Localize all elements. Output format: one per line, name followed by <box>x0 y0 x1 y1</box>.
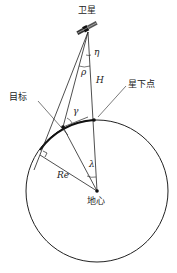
earth-radius-symbol: Re <box>57 171 69 180</box>
subsat-leader-line <box>98 86 126 117</box>
target-label: 目标 <box>9 93 27 102</box>
rho-symbol: ρ <box>81 68 86 77</box>
lambda-symbol: λ <box>89 160 95 169</box>
lambda-arc <box>87 176 96 177</box>
earth-center-label: 地心 <box>87 197 105 206</box>
target-leader-line <box>38 101 68 135</box>
horizon-tangent-line <box>34 32 88 170</box>
sub-satellite-point-label: 星下点 <box>128 80 155 89</box>
earth-center-point <box>95 189 99 193</box>
height-symbol: H <box>96 76 104 85</box>
eta-arc <box>86 55 91 56</box>
target-point <box>61 125 65 129</box>
gamma-arc <box>67 118 72 123</box>
geometry-diagram <box>0 0 177 273</box>
gamma-symbol: γ <box>73 107 78 116</box>
satellite-label: 卫星 <box>78 6 96 15</box>
right-angle-marker <box>43 151 47 157</box>
sub-satellite-point <box>92 118 96 122</box>
eta-symbol: η <box>94 48 99 57</box>
